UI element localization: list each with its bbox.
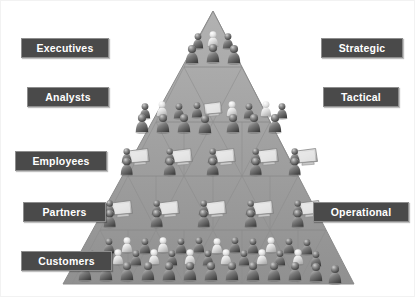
- tier-executives-people: [185, 31, 240, 65]
- label-operational[interactable]: Operational: [313, 202, 409, 222]
- label-customers[interactable]: Customers: [21, 251, 112, 271]
- label-employees[interactable]: Employees: [15, 151, 107, 171]
- label-analysts[interactable]: Analysts: [27, 87, 109, 107]
- label-partners[interactable]: Partners: [23, 202, 106, 222]
- label-strategic[interactable]: Strategic: [321, 38, 403, 58]
- diagram-canvas: Executives Analysts Employees Partners C…: [0, 0, 415, 297]
- label-tactical[interactable]: Tactical: [323, 87, 399, 107]
- label-executives[interactable]: Executives: [21, 38, 109, 58]
